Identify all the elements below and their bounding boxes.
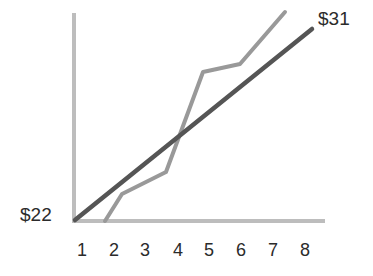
x-tick-1: 1 <box>72 241 92 259</box>
trend-line <box>75 29 312 220</box>
end-value-label: $31 <box>318 9 350 28</box>
x-tick-2: 2 <box>104 241 124 259</box>
x-tick-6: 6 <box>231 241 251 259</box>
actual-series-line <box>105 12 285 221</box>
x-tick-5: 5 <box>199 241 219 259</box>
line-chart <box>0 0 373 276</box>
start-value-label: $22 <box>20 205 52 224</box>
x-tick-4: 4 <box>168 241 188 259</box>
x-tick-3: 3 <box>135 241 155 259</box>
x-tick-8: 8 <box>295 241 315 259</box>
x-tick-7: 7 <box>263 241 283 259</box>
